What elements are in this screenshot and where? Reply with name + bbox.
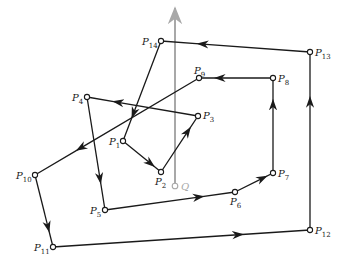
- vertex-p6: [232, 189, 237, 194]
- edge-P4-P5: [87, 97, 105, 210]
- vertex-p12: [307, 227, 312, 232]
- edge-P13-P14: [161, 41, 310, 52]
- label-p12: P12: [314, 225, 331, 239]
- label-p1: P1: [108, 136, 120, 150]
- edge-P6-P7: [235, 173, 273, 192]
- vertex-p10: [32, 172, 37, 177]
- vertex-p5: [102, 207, 107, 212]
- label-p5: P5: [89, 205, 101, 219]
- vertex-p1: [120, 138, 125, 143]
- label-p7: P7: [277, 168, 289, 182]
- vertex-p3: [195, 113, 200, 118]
- label-p6: P6: [229, 196, 242, 210]
- edge-P14-P1: [123, 41, 161, 141]
- vertex-p13: [307, 49, 312, 54]
- vertex-p11: [50, 244, 55, 249]
- edge-P1-P2: [123, 141, 161, 172]
- label-p10: P10: [15, 170, 32, 184]
- label-p13: P13: [314, 47, 331, 61]
- edge-P10-P11: [35, 175, 53, 247]
- polygon-edges: [35, 41, 310, 247]
- vertex-p7: [270, 170, 275, 175]
- vertex-p14: [158, 38, 163, 43]
- edge-P11-P12: [53, 230, 310, 247]
- vertex-q: [172, 183, 178, 189]
- vertex-labels: P1P2P3P4P5P6P7P8P9P10P11P12P13P14Q: [15, 36, 331, 256]
- label-p3: P3: [202, 110, 214, 124]
- polygon-diagram: P1P2P3P4P5P6P7P8P9P10P11P12P13P14Q: [0, 0, 346, 264]
- polygon-vertices: [32, 38, 312, 249]
- label-p8: P8: [277, 73, 289, 87]
- edge-P3-P4: [87, 97, 198, 116]
- vertex-p4: [84, 94, 89, 99]
- label-q: Q: [181, 181, 189, 192]
- label-p14: P14: [141, 36, 158, 50]
- label-p11: P11: [33, 242, 50, 256]
- vertex-p2: [158, 169, 163, 174]
- edge-P5-P6: [105, 192, 235, 210]
- edge-P2-P3: [161, 116, 198, 172]
- label-p4: P4: [71, 92, 84, 106]
- vertex-p8: [270, 75, 275, 80]
- label-p2: P2: [154, 176, 166, 190]
